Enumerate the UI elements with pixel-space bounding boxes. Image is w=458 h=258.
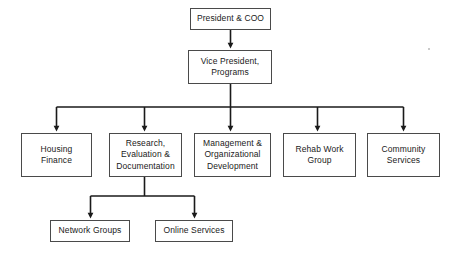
speck-artifact [428,48,430,50]
node-label: Network Groups [57,225,124,237]
node-label: President & COO [195,13,266,25]
node-housing-finance[interactable]: Housing Finance [21,133,92,177]
node-community-services[interactable]: Community Services [367,133,440,177]
node-rehab-work-group[interactable]: Rehab Work Group [283,133,356,177]
node-label: Rehab Work Group [293,144,345,167]
edge-research-to-subunits [91,177,195,216]
node-network-groups[interactable]: Network Groups [50,220,130,242]
node-label: Management & Organizational Development [201,138,264,173]
node-label: Research, Evaluation & Documentation [114,138,176,173]
node-label: Online Services [161,225,226,237]
org-chart: President & COO Vice President, Programs… [0,0,458,258]
node-vice-president-programs[interactable]: Vice President, Programs [188,50,272,84]
node-president-coo[interactable]: President & COO [190,8,271,30]
node-management-organizational-development[interactable]: Management & Organizational Development [194,133,271,177]
node-research-evaluation-documentation[interactable]: Research, Evaluation & Documentation [109,133,182,177]
edge-vice-president-to-divisions [57,84,404,129]
node-label: Housing Finance [39,144,75,167]
node-label: Community Services [380,144,428,167]
node-online-services[interactable]: Online Services [155,220,233,242]
node-label: Vice President, Programs [199,56,262,79]
